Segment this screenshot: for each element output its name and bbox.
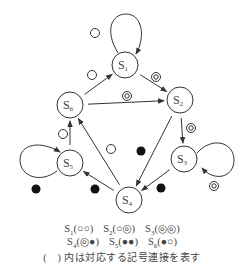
edge-symbol-s1-s2: [152, 73, 161, 82]
legend-item-s2: S2(○◎): [103, 222, 135, 235]
self-loop-s5: [20, 145, 60, 177]
state-node-s5: S5: [57, 150, 83, 176]
edge-symbol-s2-s3: [187, 124, 196, 133]
edge-s6-s2: [88, 101, 164, 104]
legend-row-2: S4(◎●) S5(●●) S6(●○): [0, 235, 244, 248]
state-node-s2: S2: [167, 87, 193, 113]
edge-symbol-s4-s6: [107, 145, 116, 154]
legend-item-s3: S3(◎◎): [145, 222, 180, 235]
edge-symbol-s1-s1: [91, 29, 100, 38]
state-node-s3: S3: [171, 146, 197, 172]
legend-row-1: S1(○○) S2(○◎) S3(◎◎): [0, 222, 244, 235]
edge-symbol-s3-s4: [157, 184, 166, 193]
state-node-s4: S4: [116, 187, 142, 213]
edge-symbol-s4-s5: [91, 185, 100, 194]
edge-symbol-s5-s6: [59, 130, 68, 139]
state-node-s1: S1: [112, 52, 138, 78]
edge-symbol-s2-s4: [137, 147, 146, 156]
legend-item-s6: S6(●○): [148, 235, 177, 248]
legend-item-s5: S5(●●): [109, 235, 138, 248]
edge-s2-s3: [181, 118, 183, 143]
self-loop-s3: [197, 143, 234, 176]
edge-symbol-s5-s5: [32, 185, 41, 194]
edge-symbol-s6-s2: [123, 92, 132, 101]
self-loop-s1: [111, 14, 142, 54]
state-node-s6: S6: [57, 92, 83, 118]
edge-symbol-s6-s1: [88, 71, 97, 80]
legend-item-s1: S1(○○): [64, 222, 93, 235]
legend-caption: ( ) 内は対応する記号連接を表す: [0, 249, 244, 264]
legend-item-s4: S4(◎●): [67, 235, 99, 248]
edge-symbol-s3-s3: [210, 182, 219, 191]
legend: S1(○○) S2(○◎) S3(◎◎) S4(◎●) S5(●●) S6(●○…: [0, 222, 244, 248]
state-transition-diagram: S1S2S3S4S5S6: [0, 0, 244, 222]
